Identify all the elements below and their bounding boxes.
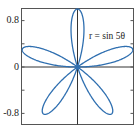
equation-annotation: r = sin 5θ — [89, 31, 125, 41]
y-tick-label-0.8: 0.8 — [1, 15, 19, 25]
y-tick-label-neg-0.8: -0.8 — [1, 108, 19, 118]
y-tick-label-0: 0 — [1, 62, 19, 72]
polar-rose-chart — [0, 0, 139, 132]
